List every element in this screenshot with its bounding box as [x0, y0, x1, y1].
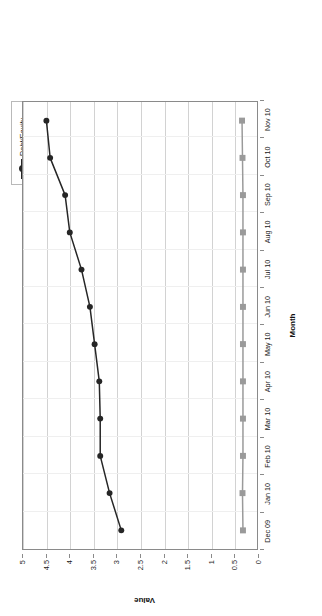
x-axis-tick-label: Oct 10 — [263, 147, 272, 168]
y-axis-tick-label: 5 — [18, 560, 27, 564]
x-axis-tick-mark — [260, 474, 264, 475]
x-axis-tick-mark — [260, 137, 264, 138]
x-axis-tick-mark — [260, 212, 264, 213]
data-point-marker — [67, 229, 73, 235]
x-axis-tick-labels: Dec 09Jan 10Feb 10Mar 10Apr 10May 10Jun … — [260, 101, 286, 550]
y-axis-tick-mark — [46, 554, 47, 558]
y-axis-tick-mark — [164, 554, 165, 558]
x-axis-tick-mark — [260, 549, 264, 550]
x-axis-tick-mark — [260, 512, 264, 513]
x-axis-tick-mark — [260, 175, 264, 176]
data-point-marker — [240, 416, 246, 422]
data-point-marker — [240, 304, 246, 310]
data-point-marker — [96, 378, 102, 384]
series-line — [242, 121, 243, 531]
x-axis-tick-label: Dec 09 — [263, 520, 272, 543]
data-point-marker — [240, 341, 246, 347]
data-point-marker — [240, 378, 246, 384]
data-point-marker — [240, 155, 246, 161]
y-axis-tick-mark — [234, 554, 235, 558]
y-axis-tick-label: 3.5 — [88, 560, 97, 570]
data-point-marker — [240, 490, 246, 496]
data-point-marker — [240, 527, 246, 533]
x-axis-tick-label: Nov 10 — [263, 108, 272, 131]
x-axis-tick-mark — [260, 250, 264, 251]
data-point-marker — [97, 416, 103, 422]
x-axis-tick-mark — [260, 399, 264, 400]
y-axis-tick-label: 0.5 — [230, 560, 239, 570]
data-point-marker — [240, 267, 246, 273]
x-axis-title: Month — [288, 101, 297, 550]
y-axis-tick-label: 4 — [65, 560, 74, 564]
series-debt-equity — [43, 118, 124, 534]
data-point-marker — [43, 118, 49, 124]
plot-area — [22, 101, 258, 550]
data-point-marker — [239, 118, 245, 124]
data-point-marker — [240, 192, 246, 198]
y-axis-title: Value — [115, 596, 175, 605]
x-axis-tick-label: Feb 10 — [263, 445, 272, 467]
x-axis-tick-label: May 10 — [263, 332, 272, 356]
y-axis-tick-mark — [116, 554, 117, 558]
x-axis-tick-label: Aug 10 — [263, 221, 272, 244]
y-axis-tick-label: 1 — [206, 560, 215, 564]
data-point-marker — [47, 155, 53, 161]
data-point-marker — [79, 267, 85, 273]
x-axis-tick-mark — [260, 362, 264, 363]
data-point-marker — [92, 341, 98, 347]
y-axis-tick-label: 2 — [159, 560, 168, 564]
y-axis-tick-mark — [22, 554, 23, 558]
series-ltdebt-equity — [239, 118, 246, 534]
series-line — [46, 121, 121, 531]
x-axis-tick-label: Jan 10 — [263, 483, 272, 505]
y-axis-tick-mark — [93, 554, 94, 558]
rotated-chart-figure: Debt/Equity LTDebt/Equity 00.511.522.533… — [0, 0, 322, 616]
y-axis-tick-mark — [258, 554, 259, 558]
y-axis-tick-labels: 00.511.522.533.544.55 — [22, 554, 258, 616]
y-axis-tick-label: 2.5 — [136, 560, 145, 570]
data-point-marker — [240, 453, 246, 459]
x-axis-tick-label: Sep 10 — [263, 183, 272, 206]
data-point-marker — [107, 490, 113, 496]
y-axis-tick-mark — [140, 554, 141, 558]
x-axis-tick-mark — [260, 100, 264, 101]
x-axis-tick-mark — [260, 437, 264, 438]
y-axis-tick-label: 1.5 — [183, 560, 192, 570]
series-layer — [23, 102, 257, 549]
x-axis-tick-label: Mar 10 — [263, 408, 272, 430]
data-point-marker — [87, 304, 93, 310]
x-axis-tick-mark — [260, 287, 264, 288]
x-axis-tick-label: Jun 10 — [263, 296, 272, 318]
y-axis-tick-mark — [69, 554, 70, 558]
x-axis-tick-label: Jul 10 — [263, 260, 272, 279]
data-point-marker — [62, 192, 68, 198]
y-axis-tick-label: 0 — [254, 560, 263, 564]
y-axis-tick-label: 4.5 — [41, 560, 50, 570]
y-axis-tick-label: 3 — [112, 560, 121, 564]
data-point-marker — [240, 229, 246, 235]
x-axis-tick-mark — [260, 325, 264, 326]
y-axis-tick-mark — [187, 554, 188, 558]
chart-canvas: Debt/Equity LTDebt/Equity 00.511.522.533… — [0, 0, 322, 616]
x-axis-tick-label: Apr 10 — [263, 371, 272, 392]
data-point-marker — [118, 527, 124, 533]
data-point-marker — [97, 453, 103, 459]
y-axis-tick-mark — [211, 554, 212, 558]
